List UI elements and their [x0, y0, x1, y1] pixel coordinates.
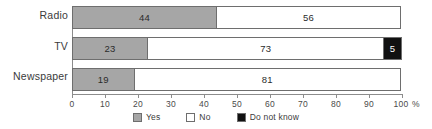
legend-item-do-not-know: Do not know [237, 112, 299, 122]
bar-segment-tv-yes: 23 [72, 37, 148, 60]
plot-area: 44 56 23 73 5 19 81 [72, 6, 402, 94]
bar-row-radio: 44 56 [72, 6, 402, 29]
x-axis-tick-label-40: 40 [199, 99, 209, 109]
bar-row-tv: 23 73 5 [72, 37, 402, 60]
bar-segment-radio-yes: 44 [72, 6, 217, 29]
x-axis-tick-label-10: 10 [100, 99, 110, 109]
bar-value-newspaper-no: 81 [262, 74, 273, 85]
x-axis-tick-label-60: 60 [265, 99, 275, 109]
legend-swatch-yes-icon [133, 113, 142, 122]
legend-swatch-no-icon [186, 113, 195, 122]
bar-segment-newspaper-yes: 19 [72, 68, 135, 91]
category-label-tv: TV [2, 40, 68, 52]
bar-value-newspaper-yes: 19 [98, 74, 109, 85]
x-axis-tick-40 [204, 94, 205, 98]
x-axis-tick-label-0: 0 [70, 99, 75, 109]
category-label-radio: Radio [2, 9, 68, 21]
x-axis-tick-70 [303, 94, 304, 98]
x-axis-tick-90 [369, 94, 370, 98]
x-axis-tick-label-70: 70 [298, 99, 308, 109]
x-axis-tick-label-50: 50 [232, 99, 242, 109]
legend-item-yes: Yes [133, 112, 160, 122]
x-axis-tick-label-30: 30 [166, 99, 176, 109]
legend-label-yes: Yes [146, 112, 160, 122]
stacked-bar-chart: Radio TV Newspaper 44 56 23 73 5 19 81 0… [0, 0, 432, 129]
x-axis-tick-20 [138, 94, 139, 98]
x-axis-tick-100 [402, 94, 403, 98]
bar-row-newspaper: 19 81 [72, 68, 402, 91]
bar-value-radio-no: 56 [303, 12, 314, 23]
x-axis-tick-label-20: 20 [133, 99, 143, 109]
x-axis-tick-0 [72, 94, 73, 98]
x-axis-tick-30 [171, 94, 172, 98]
x-axis-tick-10 [105, 94, 106, 98]
legend-swatch-do-not-know-icon [237, 113, 246, 122]
category-label-newspaper: Newspaper [2, 70, 68, 82]
x-axis-tick-80 [336, 94, 337, 98]
bar-value-tv-no: 73 [260, 43, 271, 54]
x-axis-tick-50 [237, 94, 238, 98]
bar-value-radio-yes: 44 [139, 12, 150, 23]
legend-label-no: No [199, 112, 210, 122]
bar-segment-tv-do-not-know: 5 [383, 37, 401, 60]
bar-segment-newspaper-no: 81 [134, 68, 401, 91]
category-label-column: Radio TV Newspaper [0, 6, 68, 94]
legend-item-no: No [186, 112, 210, 122]
x-axis-tick-label-90: 90 [364, 99, 374, 109]
chart-legend: Yes No Do not know [0, 112, 432, 122]
x-axis-tick-60 [270, 94, 271, 98]
bar-segment-radio-no: 56 [216, 6, 401, 29]
x-axis-tick-label-100: 100 [394, 99, 409, 109]
x-axis-tick-label-80: 80 [331, 99, 341, 109]
legend-label-do-not-know: Do not know [250, 112, 299, 122]
bar-value-tv-do-not-know: 5 [390, 43, 395, 54]
bar-value-tv-yes: 23 [104, 43, 115, 54]
x-axis-unit-label: % [412, 99, 420, 109]
bar-segment-tv-no: 73 [147, 37, 385, 60]
